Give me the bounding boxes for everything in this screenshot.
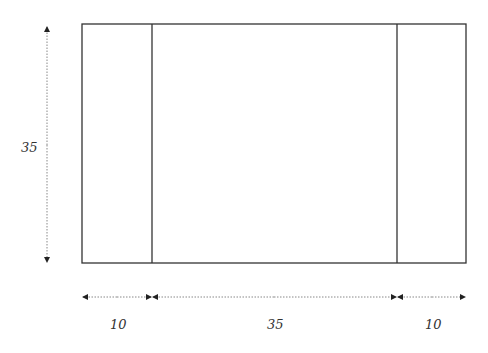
dimension-diagram: 35 10 35 10	[0, 0, 488, 353]
width-label-middle: 35	[267, 317, 284, 332]
outer-rectangle	[82, 24, 466, 263]
width-label-right: 10	[425, 317, 442, 332]
width-label-left: 10	[110, 317, 127, 332]
height-label: 35	[21, 140, 38, 155]
